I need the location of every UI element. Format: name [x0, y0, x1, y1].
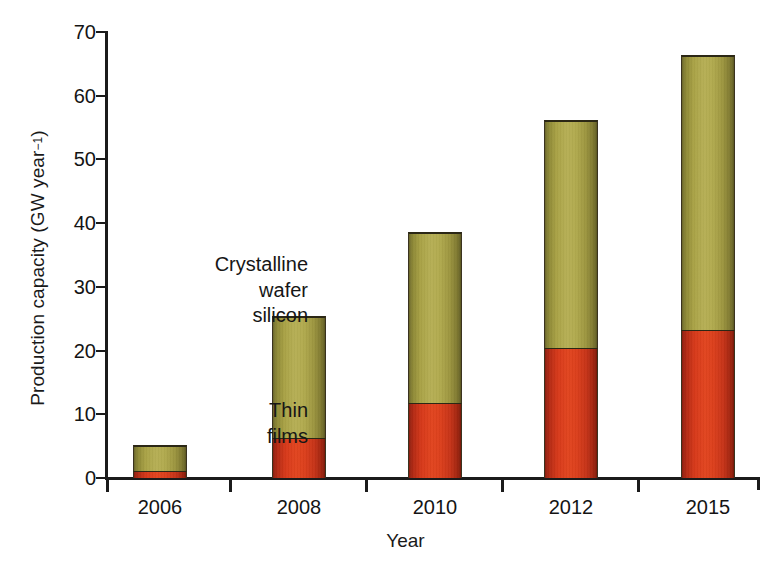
- bar-segment-thin-films: [681, 331, 735, 478]
- x-axis-tick-label-2010: 2010: [390, 496, 480, 519]
- y-axis-tick-label: 50: [44, 148, 96, 171]
- bar-segment-thin-films: [408, 404, 462, 478]
- annotation-crystalline-wafer-silicon: Crystalline wafer silicon: [148, 252, 308, 329]
- bar-2006: [133, 445, 187, 478]
- y-axis-tick-label: 70: [44, 21, 96, 44]
- x-axis-tick-mark: [501, 479, 504, 492]
- x-axis-tick-mark: [637, 479, 640, 492]
- y-axis-tick-label: 20: [44, 339, 96, 362]
- annotation-line: Thin: [168, 398, 308, 424]
- bar-2012: [544, 120, 598, 478]
- annotation-thin-films: Thin films: [168, 398, 308, 449]
- chart-figure: Production capacity (GW year−1) 01020304…: [0, 0, 771, 564]
- x-axis-tick-label-2015: 2015: [663, 496, 753, 519]
- x-axis-tick-mark: [106, 479, 109, 492]
- bar-segment-crystalline-wafer-silicon: [408, 232, 462, 404]
- x-axis-tick-mark: [229, 479, 232, 492]
- x-axis-tick-label-2008: 2008: [254, 496, 344, 519]
- bar-2015: [681, 55, 735, 478]
- bar-segment-crystalline-wafer-silicon: [544, 120, 598, 349]
- y-axis-tick-label: 0: [44, 467, 96, 490]
- bar-segment-thin-films: [544, 349, 598, 478]
- x-axis-title-text: Year: [386, 530, 424, 552]
- y-axis-tick-label: 40: [44, 212, 96, 235]
- x-axis-title: Year: [0, 530, 771, 552]
- y-axis-tick-label: 10: [44, 403, 96, 426]
- bar-segment-thin-films: [133, 472, 187, 478]
- x-axis-tick-label-2012: 2012: [526, 496, 616, 519]
- bar-segment-crystalline-wafer-silicon: [681, 55, 735, 331]
- y-axis-tick-label: 30: [44, 275, 96, 298]
- y-axis-tick-labels: 010203040506070: [44, 0, 96, 564]
- x-axis-right-cap: [757, 477, 760, 490]
- x-axis-tick-mark: [365, 479, 368, 492]
- y-axis-tick-label: 60: [44, 84, 96, 107]
- y-axis-line: [105, 31, 108, 480]
- annotation-line: silicon: [148, 303, 308, 329]
- annotation-line: wafer: [148, 278, 308, 304]
- annotation-line: Crystalline: [148, 252, 308, 278]
- bar-2010: [408, 232, 462, 478]
- x-axis-tick-label-2006: 2006: [115, 496, 205, 519]
